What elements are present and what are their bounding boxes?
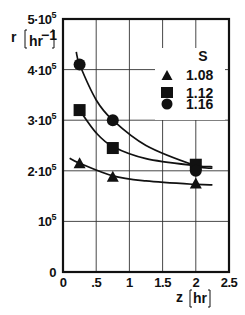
square-icon <box>161 87 173 98</box>
circle-marker <box>74 59 86 71</box>
square-marker <box>107 142 119 154</box>
square-marker <box>74 104 86 116</box>
y-tick-label: 5·105 <box>27 10 56 27</box>
x-tick-label: .5 <box>91 275 101 290</box>
y-axis-var: r <box>11 29 17 45</box>
triangle-marker <box>74 157 86 168</box>
legend-title: S <box>198 48 207 64</box>
y-axis-unit-exp: −1 <box>41 27 57 43</box>
x-tick-label: 1 <box>126 275 133 290</box>
x-tick-label: 2.5 <box>221 275 238 290</box>
y-tick-label: 3·105 <box>27 111 56 128</box>
legend-label-1: 1.08 <box>186 67 213 83</box>
triangle-marker <box>190 177 202 188</box>
legend-label-3: 1.16 <box>186 96 213 112</box>
circle-marker <box>107 114 119 126</box>
y-tick-label: 4·105 <box>27 61 56 78</box>
x-axis-var: z <box>176 289 183 305</box>
x-tick-label: 2 <box>192 275 199 290</box>
y-axis-label: r hr −1 <box>11 27 57 49</box>
circle-marker <box>190 165 202 177</box>
circle-icon <box>162 99 173 110</box>
y-tick-labels: 01052·1053·1054·1055·105 <box>27 10 56 280</box>
x-axis-unit: hr <box>193 290 208 306</box>
chart: S 1.08 1.12 1.16 01052·1053·1054·1055·10… <box>0 0 245 315</box>
x-axis-label: z hr <box>176 289 210 307</box>
x-tick-label: 0 <box>60 275 67 290</box>
x-tick-label: 1.5 <box>154 275 171 290</box>
legend: S 1.08 1.12 1.16 <box>155 48 225 120</box>
y-tick-label: 0 <box>49 265 56 280</box>
y-tick-label: 105 <box>38 212 56 229</box>
x-tick-labels: 0.511.522.5 <box>60 275 238 290</box>
y-tick-label: 2·105 <box>27 162 56 179</box>
